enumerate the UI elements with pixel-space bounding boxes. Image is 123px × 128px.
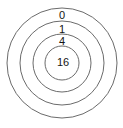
concentric-circles-canvas: 0 1 4 16 xyxy=(0,0,123,128)
ring-label-center: 16 xyxy=(57,56,69,68)
concentric-circles-diagram: 0 1 4 16 xyxy=(0,0,123,128)
ring-label-second: 1 xyxy=(59,23,65,35)
ring-label-outer: 0 xyxy=(59,9,65,21)
ring-label-third: 4 xyxy=(59,35,65,47)
